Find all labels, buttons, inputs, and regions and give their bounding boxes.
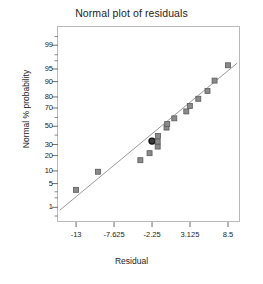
y-tick-label: 50 bbox=[13, 122, 53, 130]
data-point[interactable] bbox=[205, 88, 210, 93]
plot-canvas bbox=[57, 26, 240, 222]
x-tick-label: 8.5 bbox=[205, 230, 251, 239]
y-tick-label: 90 bbox=[13, 78, 53, 86]
y-tick-label: 10 bbox=[13, 167, 53, 175]
data-point[interactable] bbox=[155, 144, 160, 149]
data-point[interactable] bbox=[165, 122, 170, 127]
data-point[interactable] bbox=[172, 116, 177, 121]
reference-line-segment bbox=[60, 63, 237, 210]
data-point[interactable] bbox=[184, 109, 189, 114]
x-axis-tick-labels: -13-7.625-2.253.1258.5 bbox=[0, 230, 263, 242]
y-tick-label: 1 bbox=[13, 203, 53, 211]
normal-probability-plot: Normal plot of residuals 151020305070809… bbox=[0, 0, 263, 284]
data-point[interactable] bbox=[138, 158, 143, 163]
x-axis-title: Residual bbox=[0, 256, 263, 266]
data-point[interactable] bbox=[95, 169, 100, 174]
y-tick-label: 20 bbox=[13, 152, 53, 160]
data-point[interactable] bbox=[212, 78, 217, 83]
y-tick-label: 70 bbox=[13, 104, 53, 112]
y-tick-label: 80 bbox=[13, 93, 53, 101]
data-point[interactable] bbox=[155, 139, 160, 144]
y-tick-label: 99 bbox=[13, 41, 53, 49]
data-points bbox=[74, 63, 231, 193]
data-point[interactable] bbox=[156, 134, 161, 139]
y-axis-title: Normal % probability bbox=[21, 39, 31, 179]
y-tick-label: 95 bbox=[13, 65, 53, 73]
data-point[interactable] bbox=[147, 151, 152, 156]
x-axis-ticks bbox=[57, 222, 240, 229]
data-point[interactable] bbox=[196, 96, 201, 101]
y-tick-label: 30 bbox=[13, 141, 53, 149]
data-point[interactable] bbox=[225, 63, 230, 68]
data-point[interactable] bbox=[74, 187, 79, 192]
data-point[interactable] bbox=[187, 103, 192, 108]
y-tick-label: 5 bbox=[13, 180, 53, 188]
reference-line bbox=[60, 63, 237, 210]
data-point-highlighted[interactable] bbox=[149, 138, 155, 144]
